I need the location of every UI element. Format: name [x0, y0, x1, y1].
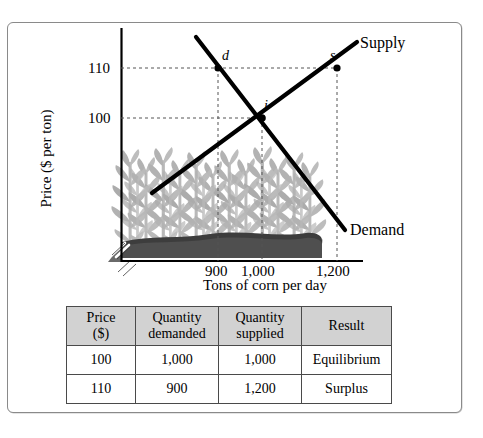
cell-quantity-demanded: 900 — [136, 375, 219, 404]
figure-root: 110 100 900 1,000 1,200 Price ($ per ton… — [0, 0, 483, 438]
point-label-s: s — [330, 48, 335, 64]
cell-result: Surplus — [302, 375, 392, 404]
header-qs-line2: supplied — [219, 326, 301, 342]
cell-price: 100 — [67, 346, 136, 375]
chart-canvas — [0, 0, 483, 300]
table-header-row: Price ($) Quantity demanded Quantity sup… — [67, 307, 392, 346]
cell-price: 110 — [67, 375, 136, 404]
point-label-d: d — [222, 48, 229, 64]
y-tick-110: 110 — [88, 60, 110, 77]
header-price-line1: Price — [67, 310, 135, 326]
point-marker-d — [214, 64, 221, 71]
header-qd-line2: demanded — [136, 326, 218, 342]
supply-demand-table: Price ($) Quantity demanded Quantity sup… — [66, 306, 392, 404]
y-axis-title: Price ($ per ton) — [38, 79, 55, 239]
y-tick-100: 100 — [88, 110, 111, 127]
supply-curve-label: Supply — [360, 34, 405, 52]
demand-curve-label: Demand — [350, 221, 404, 239]
point-label-i: i — [264, 98, 268, 114]
supply-demand-chart: 110 100 900 1,000 1,200 Price ($ per ton… — [0, 0, 483, 300]
header-qd-line1: Quantity — [136, 310, 218, 326]
cell-quantity-supplied: 1,000 — [219, 346, 302, 375]
header-price: Price ($) — [67, 307, 136, 346]
cell-quantity-supplied: 1,200 — [219, 375, 302, 404]
header-quantity-supplied: Quantity supplied — [219, 307, 302, 346]
cell-result: Equilibrium — [302, 346, 392, 375]
header-price-line2: ($) — [67, 326, 135, 342]
header-qs-line1: Quantity — [219, 310, 301, 326]
cell-quantity-demanded: 1,000 — [136, 346, 219, 375]
table-row: 100 1,000 1,000 Equilibrium — [67, 346, 392, 375]
header-quantity-demanded: Quantity demanded — [136, 307, 219, 346]
point-marker-s — [333, 64, 340, 71]
point-marker-i — [258, 114, 266, 122]
x-axis-title: Tons of corn per day — [160, 277, 370, 294]
header-result: Result — [302, 307, 392, 346]
table-row: 110 900 1,200 Surplus — [67, 375, 392, 404]
